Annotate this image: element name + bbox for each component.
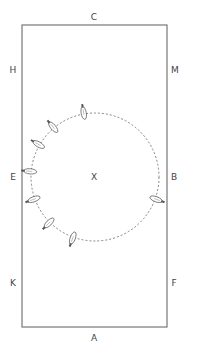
- horse-icon: [149, 195, 165, 205]
- marker-x: X: [91, 173, 97, 182]
- horse-icon: [67, 231, 77, 247]
- horse-icon: [21, 168, 37, 175]
- marker-a: A: [91, 334, 97, 343]
- horse-icon: [80, 104, 88, 120]
- horse-icon: [45, 119, 59, 134]
- marker-m: M: [171, 66, 179, 75]
- marker-c: C: [91, 13, 97, 22]
- horse-icon: [25, 195, 41, 205]
- horse-icon: [41, 217, 56, 232]
- arena-diagram: [0, 0, 199, 356]
- marker-f: F: [171, 279, 176, 288]
- marker-b: B: [171, 173, 177, 182]
- marker-h: H: [10, 66, 17, 75]
- marker-k: K: [10, 279, 16, 288]
- marker-e: E: [10, 173, 16, 182]
